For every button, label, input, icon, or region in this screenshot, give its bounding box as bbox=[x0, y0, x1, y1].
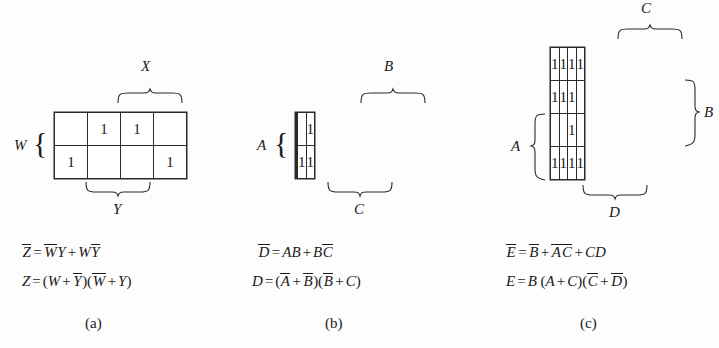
kmap-cell[interactable]: 1 bbox=[298, 146, 307, 179]
panel-b-left-brace: { bbox=[274, 128, 288, 158]
kmap-cell[interactable]: 1 bbox=[559, 147, 568, 180]
panel-c-kmap: 1 1 1 1 1 1 1 1 1 bbox=[550, 47, 585, 180]
kmap-cell[interactable] bbox=[298, 113, 307, 146]
kmap-cell[interactable]: 1 bbox=[568, 81, 577, 114]
kmap-cell[interactable]: 1 bbox=[576, 48, 585, 81]
panel-b-left-label: A bbox=[257, 137, 266, 154]
panel-b-top-brace-label: B bbox=[384, 58, 393, 75]
kmap-cell[interactable]: 1 bbox=[559, 48, 568, 81]
table-row: 1 bbox=[551, 114, 585, 147]
kmap-cell[interactable]: 1 bbox=[551, 81, 560, 114]
kmap-cell[interactable] bbox=[559, 114, 568, 147]
panel-c-top-brace-label: C bbox=[641, 0, 651, 17]
table-row: 1 bbox=[296, 113, 315, 146]
panel-c: C A 1 1 1 1 1 1 bbox=[0, 0, 240, 348]
panel-b-caption: (b) bbox=[325, 315, 343, 332]
kmap-cell[interactable] bbox=[551, 114, 560, 147]
panel-c-bottom-brace-label: D bbox=[609, 204, 620, 221]
panel-c-top-brace bbox=[617, 24, 683, 38]
panel-c-equation-2: E=B (A+C)(C+D) bbox=[506, 273, 628, 290]
panel-c-right-brace-label: B bbox=[704, 104, 713, 121]
kmap-cell[interactable] bbox=[576, 114, 585, 147]
kmap-cell[interactable]: 1 bbox=[306, 113, 315, 146]
panel-b-bottom-brace-label: C bbox=[354, 201, 364, 218]
panel-c-bottom-brace bbox=[582, 184, 648, 198]
panel-c-left-label: A bbox=[511, 138, 520, 155]
panel-c-left-brace bbox=[530, 113, 544, 181]
panel-c-kmap-table: 1 1 1 1 1 1 1 1 1 bbox=[550, 47, 585, 180]
panel-c-caption: (c) bbox=[580, 315, 597, 332]
panel-b-bottom-brace bbox=[327, 181, 393, 195]
panel-b-top-brace bbox=[360, 88, 426, 102]
table-row: 1 1 bbox=[296, 146, 315, 179]
table-row: 1 1 1 1 bbox=[551, 147, 585, 180]
kmap-cell[interactable]: 1 bbox=[576, 147, 585, 180]
panel-c-equation-1: E=B+AC+CD bbox=[506, 244, 606, 261]
panel-b-equation-2: D=(A+B)(B+C) bbox=[252, 273, 361, 290]
kmap-cell[interactable]: 1 bbox=[568, 147, 577, 180]
table-row: 1 1 1 bbox=[551, 81, 585, 114]
kmap-cell[interactable] bbox=[576, 81, 585, 114]
panel-b-kmap: 1 1 1 bbox=[295, 112, 315, 179]
kmap-cell[interactable]: 1 bbox=[306, 146, 315, 179]
table-row: 1 1 1 1 bbox=[551, 48, 585, 81]
kmap-cell[interactable]: 1 bbox=[559, 81, 568, 114]
kmap-cell[interactable]: 1 bbox=[568, 114, 577, 147]
kmap-cell[interactable]: 1 bbox=[568, 48, 577, 81]
panel-b-kmap-table: 1 1 1 bbox=[295, 112, 315, 179]
karnaugh-map-figure: X W { 1 1 1 1 bbox=[0, 0, 719, 348]
panel-c-right-brace bbox=[684, 79, 698, 147]
panel-b-equation-1: D=AB+BC bbox=[258, 244, 333, 261]
kmap-cell[interactable]: 1 bbox=[551, 48, 560, 81]
kmap-cell[interactable]: 1 bbox=[551, 147, 560, 180]
